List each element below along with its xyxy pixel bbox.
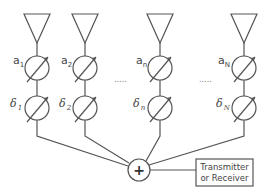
antenna-column-2: a2 δ2 xyxy=(59,14,129,163)
box-label-line2: or Receiver xyxy=(200,173,249,183)
amplitude-label: aN xyxy=(218,54,230,69)
amplitude-label: an xyxy=(136,54,147,69)
antenna-column-N: aN δN xyxy=(149,14,257,165)
antenna-icon xyxy=(231,14,257,43)
antenna-icon xyxy=(24,14,50,43)
transmitter-receiver-box: Transmitter or Receiver xyxy=(196,159,253,186)
phase-label: δN xyxy=(216,97,231,112)
phase-label: δn xyxy=(133,97,146,112)
summing-junction: + xyxy=(128,159,150,181)
antenna-icon xyxy=(72,14,98,43)
plus-icon: + xyxy=(133,162,145,178)
beamforming-diagram: a1 δ1 a2 δ2 ..... an δn xyxy=(0,0,264,196)
antenna-icon xyxy=(147,14,173,43)
ellipsis: ..... xyxy=(199,75,212,84)
phase-label: δ1 xyxy=(10,97,22,112)
amplitude-label: a2 xyxy=(61,54,72,69)
antenna-column-n: an δn xyxy=(133,14,173,161)
ellipsis: ..... xyxy=(114,75,127,84)
amplitude-label: a1 xyxy=(13,54,24,69)
box-label-line1: Transmitter xyxy=(199,162,249,172)
phase-label: δ2 xyxy=(59,97,72,112)
antenna-column-1: a1 δ1 xyxy=(10,14,128,166)
